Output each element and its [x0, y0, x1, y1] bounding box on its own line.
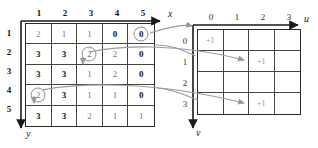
left-cell-r3c4[interactable]: 0 [128, 85, 154, 105]
left-row-header-3: 4 [2, 85, 16, 95]
right-cell-r3c0[interactable] [198, 93, 224, 114]
right-v-axis-label: v [196, 127, 200, 138]
right-row-header-2: 2 [178, 78, 192, 88]
left-col-header-3: 4 [104, 8, 130, 18]
left-cell-r2c2[interactable]: 1 [77, 65, 103, 85]
left-cell-r0c0[interactable]: 2 [26, 24, 52, 44]
right-row-header-1: 1 [178, 57, 192, 67]
right-col-header-2: 2 [250, 12, 276, 22]
left-cell-r4c0[interactable]: 3 [26, 106, 52, 126]
highlight-circle-r1c2 [82, 47, 97, 62]
left-x-axis-label: x [168, 8, 172, 19]
left-row-header-0: 1 [2, 28, 16, 38]
left-cell-r1c4[interactable]: 0 [128, 44, 154, 64]
right-cell-r0c2[interactable] [249, 30, 275, 51]
left-cell-r2c4[interactable]: 0 [128, 65, 154, 85]
right-cell-r3c3[interactable] [275, 93, 301, 114]
left-cell-r4c4[interactable]: 1 [128, 106, 154, 126]
right-cell-r0c1[interactable] [224, 30, 250, 51]
left-col-header-4: 5 [130, 8, 156, 18]
right-u-axis-label: u [304, 13, 309, 24]
left-cell-r0c1[interactable]: 1 [52, 24, 78, 44]
left-cell-r2c1[interactable]: 3 [52, 65, 78, 85]
left-cell-r2c3[interactable]: 2 [103, 65, 129, 85]
left-cell-r3c2[interactable]: 1 [77, 85, 103, 105]
right-cell-r1c3[interactable] [275, 51, 301, 72]
left-row-header-1: 2 [2, 47, 16, 57]
right-cell-r1c0[interactable] [198, 51, 224, 72]
left-col-header-2: 3 [78, 8, 104, 18]
mapping-arrow-1 [150, 25, 192, 33]
right-cell-r1c1[interactable] [224, 51, 250, 72]
left-row-header-2: 3 [2, 66, 16, 76]
left-cell-r1c1[interactable]: 3 [52, 44, 78, 64]
left-cell-r4c3[interactable]: 1 [103, 106, 129, 126]
right-col-header-3: 3 [276, 12, 302, 22]
left-cell-r1c3[interactable]: 2 [103, 44, 129, 64]
left-cell-r3c1[interactable]: 3 [52, 85, 78, 105]
right-cell-r3c1[interactable] [224, 93, 250, 114]
left-cell-r4c1[interactable]: 3 [52, 106, 78, 126]
left-cell-r3c3[interactable]: 1 [103, 85, 129, 105]
right-row-header-3: 3 [178, 99, 192, 109]
left-row-header-4: 5 [2, 104, 16, 114]
left-col-header-0: 1 [26, 8, 52, 18]
highlight-circle-r0c4 [134, 26, 149, 41]
left-cell-r1c0[interactable]: 3 [26, 44, 52, 64]
right-grid: +1 +1 +1 [197, 29, 301, 115]
right-cell-r1c2[interactable]: +1 [249, 51, 275, 72]
left-cell-r0c4[interactable]: 0 [128, 24, 154, 44]
figure-root: 1 2 3 4 5 1 2 3 4 5 x y 2 1 1 0 0 3 3 2 … [0, 0, 318, 148]
right-cell-r2c0[interactable] [198, 72, 224, 93]
right-cell-r2c3[interactable] [275, 72, 301, 93]
highlight-circle-r3c0 [31, 87, 46, 102]
right-cell-r2c1[interactable] [224, 72, 250, 93]
left-grid: 2 1 1 0 0 3 3 2 2 0 3 3 1 2 0 2 3 1 1 0 … [25, 23, 155, 127]
left-cell-r3c0[interactable]: 2 [26, 85, 52, 105]
left-cell-r0c3[interactable]: 0 [103, 24, 129, 44]
right-col-header-1: 1 [224, 12, 250, 22]
left-cell-r1c2[interactable]: 2 [77, 44, 103, 64]
right-cell-r0c3[interactable] [275, 30, 301, 51]
left-cell-r4c2[interactable]: 2 [77, 106, 103, 126]
right-cell-r3c2[interactable]: +1 [249, 93, 275, 114]
left-col-header-1: 2 [52, 8, 78, 18]
right-row-header-0: 0 [178, 36, 192, 46]
left-y-axis-label: y [26, 128, 30, 139]
left-cell-r2c0[interactable]: 3 [26, 65, 52, 85]
right-col-header-0: 0 [198, 12, 224, 22]
right-cell-r2c2[interactable] [249, 72, 275, 93]
mapping-connector-row1 [156, 45, 196, 56]
left-cell-r0c2[interactable]: 1 [77, 24, 103, 44]
right-cell-r0c0[interactable]: +1 [198, 30, 224, 51]
